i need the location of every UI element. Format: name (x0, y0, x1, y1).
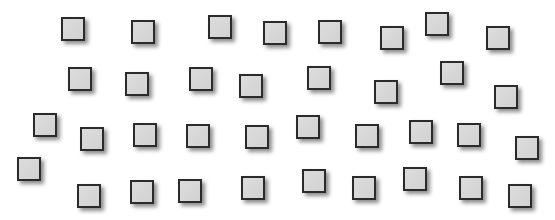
square-shape (374, 80, 398, 104)
square-shape (440, 61, 464, 85)
square-shape (133, 123, 157, 147)
square-shape (508, 184, 532, 208)
square-shape (318, 20, 342, 44)
square-shape (352, 176, 376, 200)
square-shape (33, 113, 57, 137)
square-shape (17, 157, 41, 181)
square-shape (245, 125, 269, 149)
square-shape (307, 66, 331, 90)
square-shape (125, 72, 149, 96)
square-shape (77, 184, 101, 208)
squares-canvas (0, 0, 555, 220)
square-shape (403, 167, 427, 191)
square-shape (61, 17, 85, 41)
square-shape (459, 176, 483, 200)
square-shape (241, 176, 265, 200)
square-shape (178, 179, 202, 203)
square-shape (186, 124, 210, 148)
square-shape (380, 26, 404, 50)
square-shape (486, 26, 510, 50)
square-shape (263, 21, 287, 45)
square-shape (409, 120, 433, 144)
square-shape (208, 15, 232, 39)
square-shape (80, 127, 104, 151)
square-shape (425, 12, 449, 36)
square-shape (296, 115, 320, 139)
square-shape (457, 123, 481, 147)
square-shape (494, 85, 518, 109)
square-shape (302, 169, 326, 193)
square-shape (68, 67, 92, 91)
square-shape (189, 67, 213, 91)
square-shape (515, 136, 539, 160)
square-shape (355, 124, 379, 148)
square-shape (239, 74, 263, 98)
square-shape (130, 180, 154, 204)
square-shape (131, 20, 155, 44)
